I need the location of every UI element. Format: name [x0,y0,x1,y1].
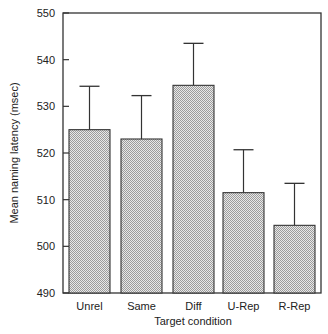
bar-chart: 490500510520530540550 UnrelSameDiffU-Rep… [0,0,328,334]
bar-rect [274,225,315,293]
y-axis-title: Mean naming latency (msec) [8,82,20,223]
bar-r-rep [274,183,315,293]
x-axis: UnrelSameDiffU-RepR-Rep [76,300,310,312]
x-tick-label: Diff [185,300,202,312]
y-tick-label: 520 [37,147,55,159]
bar-unrel [69,86,110,293]
y-tick-label: 490 [37,287,55,299]
y-tick-label: 540 [37,54,55,66]
bar-rect [121,139,162,293]
bar-same [121,96,162,293]
bar-rect [173,85,214,293]
bar-rect [223,193,264,293]
bar-diff [173,43,214,293]
bar-u-rep [223,150,264,293]
x-tick-label: R-Rep [279,300,311,312]
y-tick-label: 510 [37,194,55,206]
bars [69,43,315,293]
x-tick-label: U-Rep [228,300,260,312]
y-tick-label: 530 [37,100,55,112]
y-tick-label: 500 [37,240,55,252]
x-tick-label: Same [127,300,156,312]
y-axis: 490500510520530540550 [37,7,69,299]
x-tick-label: Unrel [76,300,102,312]
y-tick-label: 550 [37,7,55,19]
x-axis-title: Target condition [154,315,232,327]
bar-rect [69,130,110,293]
